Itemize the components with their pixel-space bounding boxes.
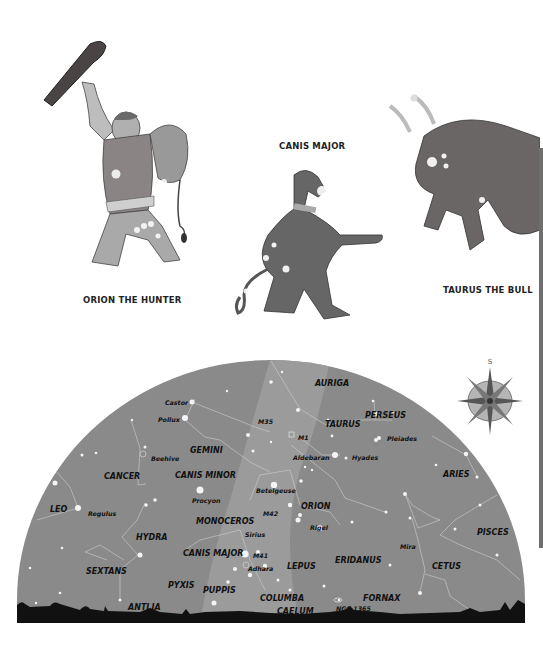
label-cancer: CANCER (104, 472, 140, 481)
label-perseus: PERSEUS (365, 411, 406, 420)
label-m42: M42 (263, 510, 279, 517)
label-cetus: CETUS (432, 562, 461, 571)
label-pollux: Pollux (158, 416, 181, 423)
taurus-caption: TAURUS THE BULL (443, 285, 533, 295)
label-columba: COLUMBA (260, 594, 304, 603)
label-m41: M41 (253, 552, 268, 559)
label-aries: ARIES (442, 470, 470, 479)
label-pisces: PISCES (477, 528, 509, 537)
label-rigel: Rigel (310, 524, 329, 532)
label-leo: LEO (50, 505, 68, 514)
label-puppis: PUPPIS (203, 586, 236, 595)
label-m35: M35 (258, 418, 274, 425)
label-hydra: HYDRA (136, 533, 167, 542)
label-m1: M1 (298, 434, 309, 441)
sky-map: AURIGA PERSEUS TAURUS GEMINI CANCER CANI… (0, 340, 543, 640)
label-beehive: Beehive (151, 455, 180, 462)
label-sextans: SEXTANS (86, 567, 127, 576)
label-aldebaran: Aldebaran (292, 454, 330, 461)
orion-illustration (30, 30, 190, 280)
label-canis-minor: CANIS MINOR (175, 471, 236, 480)
label-lepus: LEPUS (287, 562, 316, 571)
label-taurus: TAURUS (325, 420, 361, 429)
canis-major-caption: CANIS MAJOR (279, 141, 345, 151)
label-fornax: FORNAX (363, 594, 401, 603)
label-hyades: Hyades (352, 454, 378, 462)
label-mira: Mira (400, 543, 416, 550)
label-auriga: AURIGA (314, 379, 349, 388)
taurus-illustration (388, 90, 540, 270)
label-betelgeuse: Betelgeuse (256, 487, 297, 495)
label-procyon: Procyon (192, 497, 221, 505)
label-regulus: Regulus (88, 510, 116, 518)
label-canis-major: CANIS MAJOR (183, 549, 243, 558)
orion-caption: ORION THE HUNTER (83, 295, 181, 305)
canis-major-illustration (234, 165, 384, 325)
label-eridanus: ERIDANUS (335, 556, 382, 565)
label-sirius: Sirius (245, 531, 265, 538)
label-monoceros: MONOCEROS (196, 517, 255, 526)
label-adhara: Adhara (247, 565, 273, 572)
label-castor: Castor (165, 399, 189, 406)
label-orion: ORION (301, 502, 331, 511)
label-pleiades: Pleiades (387, 435, 417, 442)
label-gemini: GEMINI (190, 446, 223, 455)
label-pyxis: PYXIS (168, 581, 195, 590)
